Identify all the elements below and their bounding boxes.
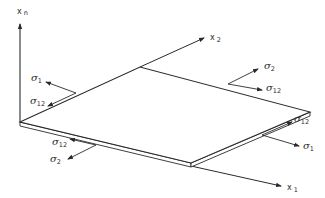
sigma2-label-right: σ2 [264,60,275,73]
sigma1-label-left: σ1 [31,72,42,85]
sigma2-label-left-front: σ2 [50,153,61,166]
sigma2-arrow-left-front [68,145,96,159]
sigma2-arrow-right [228,69,258,84]
xn-axis: xn [17,7,28,122]
sigma12-arrow-right-back [228,84,262,90]
x2-axis: x2 [140,33,221,67]
plate-stress-diagram: xn x2 x1 σ1 σ12 σ2 σ12 σ12 σ1 [0,0,325,198]
sigma1-arrow-left [46,82,76,93]
x2-axis-label: x2 [210,33,221,44]
x1-axis: x1 [191,166,298,194]
sigma1-label-right-front: σ1 [303,140,314,153]
x1-axis-label: x1 [287,183,298,194]
stress-group-right-back: σ2 σ12 [228,60,281,95]
sigma1-arrow-right-front [262,135,299,146]
xn-axis-label: xn [17,7,28,17]
sigma12-label-right-back: σ12 [266,82,281,95]
sigma12-label-left: σ12 [30,95,45,108]
sigma12-label-left-front: σ12 [52,136,67,149]
